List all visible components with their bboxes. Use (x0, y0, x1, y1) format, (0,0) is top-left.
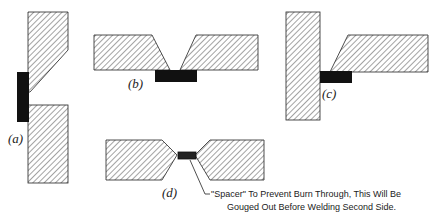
plate-c-horizontal (330, 35, 428, 72)
figure-c: (c) (286, 12, 428, 120)
label-c: (c) (322, 86, 336, 101)
spacer-d (178, 152, 196, 159)
figure-d: (d) "Spacer" To Prevent Burn Through, Th… (106, 140, 401, 212)
backing-strip-b (155, 70, 197, 82)
label-d: (d) (162, 185, 177, 200)
plate-d-right (195, 140, 264, 180)
plate-b-right (180, 35, 258, 70)
backing-strip-c (320, 71, 352, 83)
plate-c-vertical (286, 12, 320, 120)
spacer-note-line2: Gouged Out Before Welding Second Side. (227, 202, 396, 212)
backing-strip-a (17, 72, 29, 122)
label-b: (b) (128, 76, 143, 91)
plate-a-top (28, 12, 68, 92)
plate-b-left (94, 35, 170, 70)
figure-a: (a) (8, 12, 68, 183)
plate-d-left (106, 140, 177, 180)
spacer-note-line1: "Spacer" To Prevent Burn Through, This W… (211, 189, 401, 199)
weld-joint-diagram: (a) (b) (c) (d) "Spacer" To Prevent Burn… (0, 0, 437, 217)
label-a: (a) (8, 131, 23, 146)
figure-b: (b) (94, 35, 258, 91)
plate-a-bottom (28, 105, 68, 183)
